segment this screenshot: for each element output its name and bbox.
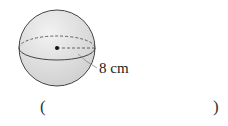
close-paren: )	[213, 97, 219, 117]
answer-blank[interactable]	[55, 98, 205, 118]
radius-label: 8 cm	[99, 60, 129, 77]
center-dot	[55, 46, 59, 50]
open-paren: (	[40, 97, 46, 117]
